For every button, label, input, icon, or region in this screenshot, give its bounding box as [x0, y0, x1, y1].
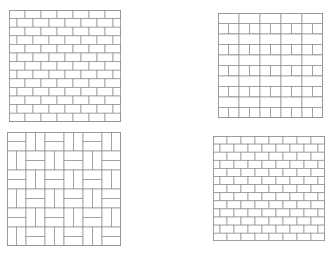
brick [239, 108, 250, 119]
brick [234, 177, 248, 185]
brick [248, 160, 262, 168]
brick [105, 113, 121, 122]
brick [7, 142, 26, 152]
brick [281, 34, 302, 45]
brick [9, 10, 25, 19]
brick [260, 97, 281, 108]
brick [25, 79, 41, 88]
brick [304, 225, 318, 233]
brick [102, 227, 121, 237]
brick [290, 225, 304, 233]
brick [269, 152, 283, 160]
brick [57, 27, 73, 36]
brick [318, 225, 325, 233]
brick [302, 13, 323, 24]
brick [9, 36, 17, 45]
brick [271, 66, 282, 77]
brick [227, 233, 241, 241]
brick [269, 233, 283, 241]
brick [276, 193, 290, 201]
brick [276, 177, 290, 185]
brick [49, 53, 65, 62]
brick [276, 144, 290, 152]
brick [213, 177, 220, 185]
brick [64, 208, 74, 227]
brick [241, 152, 255, 160]
brick [297, 201, 311, 209]
brick [227, 152, 241, 160]
brick [102, 161, 121, 171]
brick [302, 24, 313, 35]
brick [262, 209, 276, 217]
brick [9, 53, 17, 62]
brick [239, 87, 250, 98]
brick [9, 79, 25, 88]
brick [313, 87, 324, 98]
brick [9, 19, 17, 28]
brick [26, 199, 45, 209]
brick [81, 70, 97, 79]
brick [45, 142, 64, 152]
brick [25, 96, 41, 105]
brick [7, 170, 26, 180]
brick [41, 79, 57, 88]
brick [64, 161, 83, 171]
brick [241, 201, 255, 209]
brick [255, 136, 269, 144]
brick [318, 160, 325, 168]
basketweave-tiles [7, 132, 121, 246]
brick [262, 177, 276, 185]
brick [297, 185, 311, 193]
brick [281, 76, 302, 87]
brick [81, 105, 97, 114]
brick [227, 185, 241, 193]
brick [234, 209, 248, 217]
brick [41, 62, 57, 71]
brick [269, 217, 283, 225]
brick [241, 168, 255, 176]
brick [97, 105, 113, 114]
brick [227, 217, 241, 225]
brick [74, 132, 84, 151]
brick [281, 87, 292, 98]
brick [55, 227, 65, 246]
brick [64, 227, 83, 237]
brick [302, 66, 313, 77]
brick [302, 108, 313, 119]
brick [213, 168, 227, 176]
brick [55, 151, 65, 170]
running-bond-coarse-svg [9, 10, 121, 122]
brick [9, 113, 25, 122]
brick [33, 53, 49, 62]
brick [269, 201, 283, 209]
brick [239, 66, 250, 77]
brick [250, 108, 261, 119]
brick [102, 170, 112, 189]
brick [41, 10, 57, 19]
brick [36, 170, 46, 189]
brick [33, 19, 49, 28]
brick [311, 201, 325, 209]
brick [65, 87, 81, 96]
brick [271, 45, 282, 56]
brick [73, 62, 89, 71]
brick [241, 233, 255, 241]
brick [81, 87, 97, 96]
brick [113, 19, 121, 28]
brick [89, 44, 105, 53]
brick [7, 189, 17, 208]
brick [73, 96, 89, 105]
brick [311, 136, 325, 144]
brick [271, 24, 282, 35]
brick [297, 152, 311, 160]
brick [255, 217, 269, 225]
brick [49, 36, 65, 45]
brick [255, 201, 269, 209]
brick [290, 177, 304, 185]
brick [26, 227, 45, 237]
brick [248, 177, 262, 185]
brick [290, 209, 304, 217]
brick [248, 193, 262, 201]
brick [220, 177, 234, 185]
brick [73, 10, 89, 19]
